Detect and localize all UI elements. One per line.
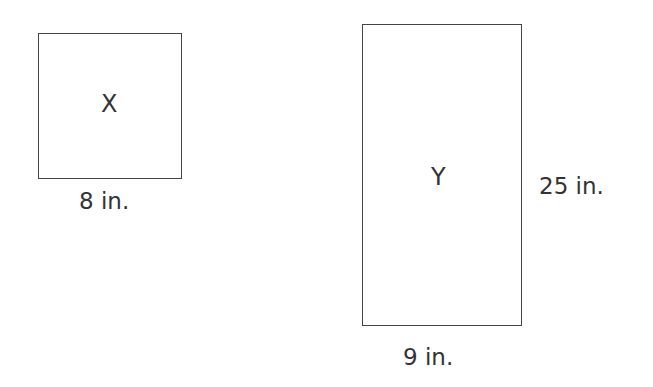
square-x-width-label: 8 in.: [79, 190, 129, 213]
rectangle-y-name: Y: [431, 165, 446, 189]
square-x: X: [38, 33, 182, 179]
rectangle-y-width-label: 9 in.: [403, 346, 453, 369]
square-x-name: X: [101, 92, 117, 116]
rectangle-y-height-label: 25 in.: [539, 175, 604, 198]
rectangle-y: Y: [362, 24, 522, 326]
